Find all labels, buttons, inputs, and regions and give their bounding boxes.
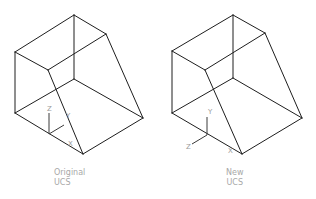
caption-new-ucs: New UCS: [226, 168, 243, 188]
y-axis-label: Y: [65, 112, 71, 120]
y-axis: [49, 125, 64, 134]
ucs-icon-original: Z Y X: [47, 105, 73, 148]
ucs-comparison-diagram: Z Y X Y Z X: [0, 0, 316, 199]
z-axis-label: Z: [47, 105, 52, 113]
caption-line-2: UCS: [54, 178, 85, 188]
z-axis: [192, 135, 207, 144]
wedge-solid-new: [172, 15, 302, 154]
wedge-solid-original: [15, 15, 143, 154]
x-axis-label: X: [228, 147, 233, 155]
ucs-icon-new: Y Z X: [186, 108, 233, 155]
x-axis-label: X: [68, 140, 73, 148]
y-axis-label: Y: [207, 108, 213, 116]
z-axis-label: Z: [186, 143, 191, 151]
caption-line-2: UCS: [226, 178, 243, 188]
caption-line-1: Original: [54, 168, 85, 178]
caption-line-1: New: [226, 168, 243, 178]
caption-original-ucs: Original UCS: [54, 168, 85, 188]
